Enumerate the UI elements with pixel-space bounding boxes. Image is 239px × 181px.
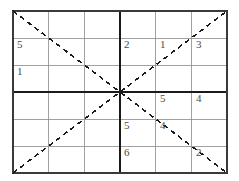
puzzle-figure: 52131545462 [0, 0, 239, 181]
grid-svg [0, 0, 239, 181]
